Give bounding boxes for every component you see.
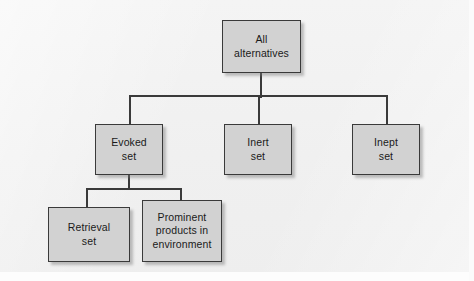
page-bottom-margin (0, 272, 474, 281)
node-inept-set-label: Inept set (374, 136, 398, 163)
node-inert-set-label: Inert set (247, 136, 269, 163)
page-right-margin (469, 0, 474, 281)
edge-to-inert-set (258, 95, 260, 125)
edge-to-inept-set (386, 95, 388, 125)
edge-level2-bar (86, 188, 182, 190)
edge-to-retrieval-set (86, 188, 88, 208)
node-evoked-set[interactable]: Evoked set (95, 124, 163, 175)
node-prominent-products-label: Prominent products in environment (153, 211, 212, 252)
node-inert-set[interactable]: Inert set (224, 124, 292, 175)
node-retrieval-set-label: Retrieval set (68, 221, 110, 248)
node-inept-set[interactable]: Inept set (352, 124, 420, 175)
node-retrieval-set[interactable]: Retrieval set (48, 207, 130, 262)
node-prominent-products[interactable]: Prominent products in environment (142, 200, 222, 262)
diagram-canvas: All alternatives Evoked set Inert set In… (0, 0, 474, 281)
node-all-alternatives[interactable]: All alternatives (222, 20, 301, 73)
edge-to-evoked-set (129, 95, 131, 125)
node-all-alternatives-label: All alternatives (234, 33, 289, 60)
node-evoked-set-label: Evoked set (111, 136, 147, 163)
